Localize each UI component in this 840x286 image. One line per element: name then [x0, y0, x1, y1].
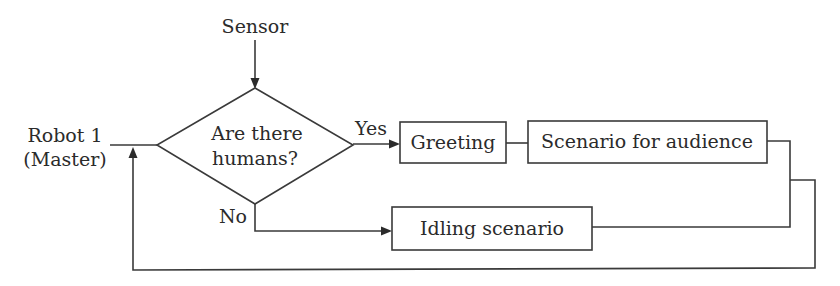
idling-label: Idling scenario: [420, 217, 564, 239]
decision-label-line1: Are there: [210, 122, 303, 144]
sensor-label: Sensor: [222, 15, 290, 37]
scenario-audience-label: Scenario for audience: [541, 130, 753, 152]
no-arrow-path: [255, 204, 383, 231]
loop-back-arrowhead-icon: [129, 147, 138, 158]
greeting-label: Greeting: [411, 131, 496, 153]
yes-label: Yes: [354, 117, 387, 139]
decision-diamond: [157, 88, 353, 204]
yes-arrowhead-icon: [389, 140, 400, 149]
robot-label-line2: (Master): [23, 148, 106, 170]
decision-label-line2: humans?: [212, 147, 298, 169]
flowchart: Sensor Robot 1 (Master) Are there humans…: [0, 0, 840, 286]
no-label: No: [219, 205, 247, 227]
no-arrowhead-icon: [381, 227, 392, 236]
robot-label-line1: Robot 1: [27, 124, 102, 146]
